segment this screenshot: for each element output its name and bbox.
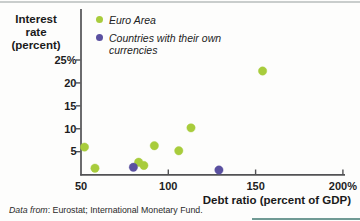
x-axis-title: Debt ratio (percent of GDP) [203,194,351,206]
y-tick-label: 10 [64,123,76,135]
data-point-euro-area [80,143,88,151]
plot-area: 50100150200%510152025% [0,0,360,221]
data-point-euro-area [258,67,266,75]
data-point-euro-area [187,124,195,132]
data-point-euro-area [140,161,148,169]
x-tick-label: 100 [159,180,177,192]
source-note-text: : Eurostat; International Monetary Fund. [48,205,203,215]
source-note-prefix: Data from [9,205,48,215]
data-point-euro-area [91,164,99,172]
data-point-euro-area [150,142,158,150]
x-tick-label: 50 [75,180,87,192]
bottom-accent-line [252,218,360,220]
y-tick-label: 5 [70,145,76,157]
source-note: Data from: Eurostat; International Monet… [9,205,203,215]
y-tick-label: 20 [64,77,76,89]
data-point-own-currencies [215,166,223,174]
y-tick-label: 15 [64,100,76,112]
x-tick-label: 150 [246,180,264,192]
x-tick-label: 200% [329,180,357,192]
data-point-own-currencies [129,163,137,171]
data-point-euro-area [175,147,183,155]
y-tick-label: 25% [54,54,76,66]
interest-rate-vs-debt-chart: Interest rate (percent) Euro Area Countr… [0,0,360,221]
